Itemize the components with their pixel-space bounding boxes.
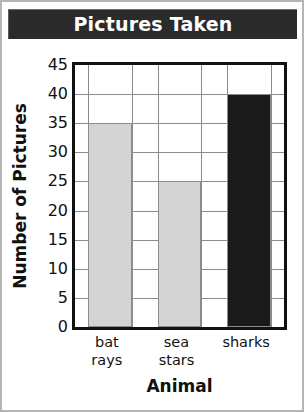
x-tick-sharks: sharks [211, 334, 281, 352]
y-axis-title: Number of Pictures [2, 62, 38, 330]
chart-title-banner: Pictures Taken [8, 9, 297, 39]
y-axis-tick-labels: 454035302520151050 [38, 62, 70, 330]
x-tick-bat-rays: bat rays [72, 334, 142, 369]
page-title: Pictures Taken [73, 15, 232, 34]
y-tick-0: 0 [58, 319, 68, 335]
bars-layer [75, 65, 284, 327]
x-tick-sea-stars: sea stars [142, 334, 212, 369]
y-tick-15: 15 [48, 232, 68, 248]
y-tick-10: 10 [48, 261, 68, 277]
bar-sea-stars [158, 181, 202, 327]
y-tick-35: 35 [48, 115, 68, 131]
y-axis-title-text: Number of Pictures [10, 103, 30, 289]
y-tick-40: 40 [48, 86, 68, 102]
chart-card: Pictures Taken Number of Pictures 454035… [0, 0, 304, 412]
y-tick-45: 45 [48, 57, 68, 73]
bar-sharks [227, 94, 271, 327]
x-axis-tick-labels: bat rayssea starssharks [72, 334, 287, 374]
bar-bat-rays [88, 123, 132, 327]
y-tick-5: 5 [58, 290, 68, 306]
y-tick-20: 20 [48, 203, 68, 219]
y-tick-25: 25 [48, 173, 68, 189]
x-axis-title: Animal [72, 376, 287, 396]
plot-area-wrapper [72, 62, 287, 330]
y-tick-30: 30 [48, 144, 68, 160]
